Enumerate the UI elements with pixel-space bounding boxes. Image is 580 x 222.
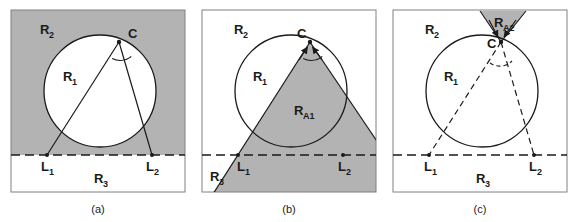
panel-c-frame: [393, 10, 567, 192]
panel-c-circle: [426, 35, 538, 147]
panel-a-circle: [44, 35, 156, 147]
panel-a-angle-arc: [112, 57, 131, 61]
panel-b-label-l2-sub: 2: [346, 167, 351, 177]
panel-c-label-ra2-sub: A2: [503, 23, 515, 33]
panel-b-shaded-region-ra1: [206, 42, 420, 205]
panel-b-point-l2: [341, 153, 345, 157]
panel-c-label-r1-sub: 1: [453, 77, 458, 87]
panel-c-point-l1: [427, 153, 431, 157]
panel-c-label-c: C: [487, 36, 497, 51]
panel-c-label-l2-sub: 2: [537, 167, 542, 177]
panel-a: C L 1 L 2 R 2 R 1 R 3 (a): [11, 10, 185, 215]
panel-b-label-r1-sub: 1: [262, 77, 267, 87]
panel-a-label-l1: L: [41, 159, 49, 174]
panel-b-label-l1: L: [237, 159, 245, 174]
panel-b-label-r3-sub: 3: [219, 177, 224, 187]
panel-b-label-l1-sub: 1: [245, 167, 250, 177]
panel-c-segment-c-l2: [501, 42, 534, 155]
panel-b-caption: (b): [282, 203, 295, 215]
panel-c-angle-arc: [490, 61, 512, 66]
panel-c-label-l1-sub: 1: [432, 167, 437, 177]
panel-c-label-l2: L: [529, 159, 537, 174]
panel-b-label-c: C: [297, 26, 307, 41]
panel-c-label-r3-sub: 3: [485, 179, 490, 189]
panel-a-label-l2-sub: 2: [154, 167, 159, 177]
panel-c-point-l2: [532, 153, 536, 157]
panel-a-label-r3-sub: 3: [103, 179, 108, 189]
panel-a-label-r2-sub: 2: [49, 30, 54, 40]
panel-b-point-c: [308, 40, 312, 44]
panel-b-label-ra1-sub: A1: [303, 111, 315, 121]
panel-c-caption: (c): [474, 203, 487, 215]
panel-a-caption: (a): [91, 203, 104, 215]
panel-c-point-c: [499, 40, 503, 44]
panel-b-label-l2: L: [338, 159, 346, 174]
panel-a-shaded-region-r2: [11, 10, 185, 155]
panel-a-label-l1-sub: 1: [49, 167, 54, 177]
panel-c-label-r2-sub: 2: [434, 30, 439, 40]
panel-c-segment-c-l1: [429, 42, 501, 155]
panel-c: C L 1 L 2 R 2 R 1 R A2 R 3 (c): [393, 10, 567, 215]
panel-a-point-c: [117, 40, 121, 44]
figure-container: C L 1 L 2 R 2 R 1 R 3 (a): [0, 0, 580, 222]
panel-a-label-r1-sub: 1: [72, 77, 77, 87]
panel-c-label-l1: L: [424, 159, 432, 174]
panel-a-label-l2: L: [146, 159, 154, 174]
panel-a-point-l2: [150, 153, 154, 157]
panel-b: C L 1 L 2 R 2 R 1 R A1 R 3 (b): [202, 10, 420, 215]
panel-b-label-r2-sub: 2: [243, 30, 248, 40]
panel-a-point-l1: [45, 153, 49, 157]
panel-b-point-l1: [236, 153, 240, 157]
geometry-figure: C L 1 L 2 R 2 R 1 R 3 (a): [0, 0, 580, 222]
panel-a-label-c: C: [128, 26, 138, 41]
panel-a-segment-c-l1: [47, 42, 119, 155]
